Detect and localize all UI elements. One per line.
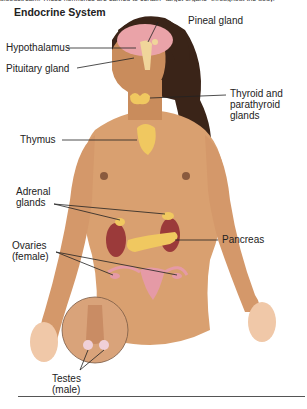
bottom-rule (18, 396, 305, 397)
label-thymus: Thymus (20, 134, 56, 145)
left-hand (30, 322, 58, 362)
nipple-right (182, 172, 190, 180)
kidney-left (106, 223, 126, 257)
label-testes-line1: Testes (52, 373, 81, 384)
testis-left (83, 340, 93, 350)
label-adrenal: Adrenal glands (16, 186, 50, 208)
nipple-left (100, 172, 108, 180)
label-thyroid-line2: parathyroid (230, 99, 283, 110)
right-hand (248, 302, 276, 342)
ovary-left (110, 273, 120, 279)
label-adrenal-line1: Adrenal (16, 186, 50, 197)
label-thyroid-line1: Thyroid and (230, 88, 283, 99)
label-ovaries: Ovaries (female) (12, 240, 49, 262)
testis-right (99, 340, 109, 350)
label-testes-line2: (male) (52, 384, 81, 395)
label-adrenal-line2: glands (16, 197, 50, 208)
label-ovaries-line2: (female) (12, 251, 49, 262)
label-pituitary-gland: Pituitary gland (6, 63, 69, 74)
pineal-dot (152, 39, 158, 45)
label-testes: Testes (male) (52, 373, 81, 395)
label-thyroid-line3: glands (230, 110, 283, 121)
label-hypothalamus: Hypothalamus (6, 42, 70, 53)
ovary-right (172, 273, 182, 279)
adrenal-right (162, 212, 174, 220)
label-thyroid: Thyroid and parathyroid glands (230, 88, 283, 121)
male-organ (86, 305, 104, 344)
label-pineal-gland: Pineal gland (188, 15, 243, 26)
label-pancreas: Pancreas (222, 234, 264, 245)
label-ovaries-line1: Ovaries (12, 240, 49, 251)
